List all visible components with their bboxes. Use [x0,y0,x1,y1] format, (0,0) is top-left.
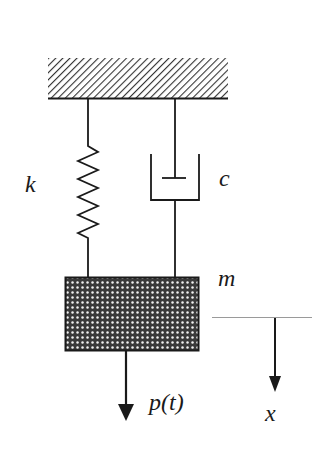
hatched-ground [48,58,228,98]
displacement-reference [212,318,312,393]
force-label: p(t) [147,389,184,415]
spring-coil [78,99,98,277]
mass-label: m [218,265,235,291]
damper-label: c [219,165,230,191]
force-arrow [118,351,134,421]
mass-block [66,278,199,351]
displacement-label: x [264,400,276,426]
spring-mass-damper-diagram: k c m p(t) x [0,0,335,451]
fixed-support [48,58,228,99]
arrowhead-icon [118,404,134,421]
spring [78,99,98,277]
spring-label: k [25,171,36,197]
damper [151,99,199,277]
arrowhead-icon [269,376,281,392]
